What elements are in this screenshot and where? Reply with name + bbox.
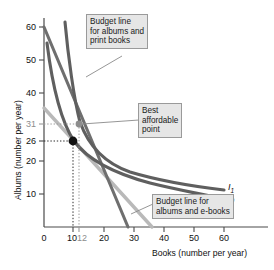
ebook-point-marker [69, 137, 78, 146]
y-tick-50: 50 [16, 55, 36, 65]
x-axis-ticks [73, 227, 224, 232]
indifference-curve-i0 [47, 43, 224, 199]
annotation-best-point-line-2: affordable [142, 116, 178, 126]
x-tick-12: 12 [76, 233, 88, 243]
annotation-print-books-line-1: Budget line [90, 17, 144, 27]
annotation-budget-line-print-books: Budget line for albums and print books [86, 14, 148, 49]
y-axis-title: Albums (number per year) [13, 100, 23, 200]
x-tick-30: 30 [126, 233, 142, 243]
annotation-best-point-line-3: point [142, 125, 178, 135]
y-tick-60: 60 [16, 22, 36, 32]
y-axis-ticks [39, 27, 44, 194]
annotation-ebooks-line-1: Budget line for [156, 197, 230, 207]
annotation-print-books-line-2: for albums and [90, 27, 144, 37]
leader-line-best-point [82, 120, 139, 124]
annotation-best-point-line-1: Best [142, 106, 178, 116]
x-axis-title: Books (number per year) [152, 248, 247, 258]
x-tick-20: 20 [96, 233, 112, 243]
annotation-best-affordable-point: Best affordable point [138, 103, 182, 138]
annotation-budget-line-ebooks: Budget line for albums and e-books [152, 194, 234, 219]
x-tick-50: 50 [186, 233, 202, 243]
annotation-ebooks-line-2: albums and e-books [156, 207, 230, 217]
budget-line-ebooks [44, 108, 152, 227]
best-affordable-point-marker [76, 121, 83, 128]
x-tick-60: 60 [216, 233, 232, 243]
annotation-print-books-line-3: print books [90, 36, 144, 46]
budget-line-print-books [44, 27, 128, 227]
leader-line-print-books [86, 56, 122, 77]
x-tick-0: 0 [36, 233, 52, 243]
chart-container: 60 50 40 31 26 20 10 0 10 12 20 30 40 50… [0, 0, 274, 270]
guide-lines-ebook-point [44, 141, 73, 227]
y-tick-40: 40 [16, 88, 36, 98]
x-tick-40: 40 [156, 233, 172, 243]
